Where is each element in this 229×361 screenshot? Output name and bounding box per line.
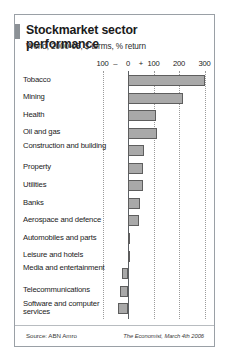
plot-area: 100–0+100200300TobaccoMiningHealthOil an… — [15, 15, 216, 348]
chart-bar — [128, 251, 130, 262]
gridline — [103, 71, 104, 319]
category-label: Telecommunications — [23, 286, 121, 295]
category-label: Mining — [23, 93, 121, 102]
category-label: Property — [23, 163, 121, 172]
chart-bar — [118, 303, 128, 314]
chart-bar — [128, 110, 156, 121]
chart-bar — [128, 180, 143, 191]
category-label: Software and computer services — [23, 300, 121, 317]
category-label: Leisure and hotels — [23, 251, 121, 260]
chart-bar — [128, 75, 205, 86]
category-label: Construction and building — [23, 142, 121, 151]
category-label: Utilities — [23, 181, 121, 190]
gridline — [179, 71, 180, 319]
gridline — [205, 71, 206, 319]
source-note: Source: ABN Amro — [26, 332, 77, 339]
gridline — [154, 71, 155, 319]
chart-bar — [122, 268, 128, 279]
axis-tick-label: 200 — [165, 59, 193, 68]
publication-credit: The Economist, March 4th 2006 — [123, 333, 204, 339]
chart-bar — [128, 233, 130, 244]
category-label: Media and entertainment — [23, 264, 121, 273]
chart-bar — [128, 163, 143, 174]
footer-divider — [15, 325, 214, 326]
zero-axis-line — [128, 71, 129, 319]
chart-bar — [120, 286, 128, 297]
category-label: Health — [23, 111, 121, 120]
category-label: Aerospace and defence — [23, 216, 121, 225]
axis-tick-label: 100 — [140, 59, 168, 68]
category-label: Automobiles and parts — [23, 234, 121, 243]
chart-bar — [128, 198, 140, 209]
axis-tick-label: 300 — [191, 59, 219, 68]
chart-bar — [128, 128, 157, 139]
chart-figure: Stockmarket sector performance World, 20… — [14, 14, 215, 347]
chart-bar — [128, 145, 144, 156]
chart-bar — [128, 93, 183, 104]
category-label: Tobacco — [23, 76, 121, 85]
category-label: Oil and gas — [23, 128, 121, 137]
category-label: Banks — [23, 199, 121, 208]
chart-bar — [128, 215, 139, 226]
